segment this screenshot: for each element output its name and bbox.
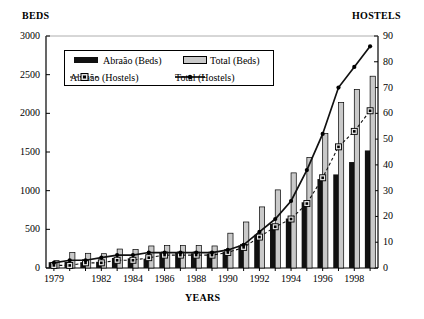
marker-total-hostels <box>99 256 103 260</box>
marker-total-hostels <box>368 44 372 48</box>
dashed-square-line-swatch-icon <box>70 72 100 82</box>
marker-abraao-hostels-core <box>68 264 71 267</box>
marker-total-hostels <box>178 250 182 254</box>
left-tick-label: 2000 <box>10 108 40 118</box>
marker-total-hostels <box>68 258 72 262</box>
plot-area <box>0 0 424 319</box>
bar-total-beds <box>354 89 359 268</box>
right-tick-label: 0 <box>383 263 413 273</box>
bar-total-beds <box>307 157 312 268</box>
marker-abraao-hostels-core <box>147 256 150 259</box>
marker-abraao-hostels-core <box>369 109 372 112</box>
marker-total-hostels <box>83 258 87 262</box>
marker-abraao-hostels-core <box>132 259 135 262</box>
x-tick-label: 1998 <box>334 274 374 284</box>
left-tick-label: 2500 <box>10 70 40 80</box>
bar-abraao-beds <box>302 202 307 268</box>
marker-abraao-hostels-core <box>258 236 261 239</box>
right-tick-label: 20 <box>383 211 413 221</box>
marker-abraao-hostels-core <box>116 259 119 262</box>
x-tick-label: 1979 <box>34 274 74 284</box>
right-tick-label: 90 <box>383 31 413 41</box>
marker-total-hostels <box>131 253 135 257</box>
marker-total-hostels <box>305 168 309 172</box>
left-tick-label: 3000 <box>10 31 40 41</box>
marker-total-hostels <box>321 132 325 136</box>
legend-row-hostels: Abraão (Hostels) Total (Hostels) <box>65 69 273 85</box>
marker-total-hostels <box>52 261 56 265</box>
marker-abraao-hostels-core <box>100 262 103 265</box>
left-tick-label: 500 <box>10 224 40 234</box>
marker-total-hostels <box>257 230 261 234</box>
legend-label: Total (Beds) <box>210 55 260 66</box>
bar-abraao-beds <box>317 179 322 268</box>
bar-abraao-beds <box>333 174 338 268</box>
bar-abraao-beds <box>270 224 275 268</box>
bar-abraao-beds <box>349 162 354 268</box>
bar-total-beds <box>323 133 328 268</box>
solid-dot-line-swatch-icon <box>175 72 205 82</box>
bar-total-beds <box>370 76 375 268</box>
legend-row-beds: Abraão (Beds) Total (Beds) <box>65 52 273 68</box>
marker-total-hostels <box>115 253 119 257</box>
right-tick-label: 10 <box>383 237 413 247</box>
chart-container: BEDS HOSTELS YEARS Abraão (Beds) Total (… <box>0 0 424 319</box>
legend-label: Abraão (Beds) <box>103 55 162 66</box>
right-tick-label: 60 <box>383 108 413 118</box>
marker-total-hostels <box>336 85 340 89</box>
legend-item-abraao-beds: Abraão (Beds) <box>74 55 162 66</box>
marker-total-hostels <box>289 199 293 203</box>
bar-abraao-beds <box>365 150 370 268</box>
marker-total-hostels <box>210 250 214 254</box>
marker-abraao-hostels-core <box>274 225 277 228</box>
chart-legend: Abraão (Beds) Total (Beds) Abraão (Hoste… <box>64 50 274 86</box>
legend-item-total-hostels: Total (Hostels) <box>175 72 235 83</box>
right-tick-label: 50 <box>383 134 413 144</box>
marker-abraao-hostels-core <box>290 218 293 221</box>
right-tick-label: 30 <box>383 186 413 196</box>
bar-abraao-beds <box>286 219 291 268</box>
legend-item-abraao-hostels: Abraão (Hostels) <box>70 72 139 83</box>
left-tick-label: 1500 <box>10 147 40 157</box>
bar-total-beds <box>338 103 343 268</box>
marker-total-hostels <box>226 248 230 252</box>
right-tick-label: 70 <box>383 83 413 93</box>
left-tick-label: 0 <box>10 263 40 273</box>
marker-abraao-hostels-core <box>337 146 340 149</box>
right-tick-label: 80 <box>383 57 413 67</box>
marker-abraao-hostels-core <box>306 202 309 205</box>
right-tick-label: 40 <box>383 160 413 170</box>
marker-total-hostels <box>194 250 198 254</box>
marker-total-hostels <box>147 250 151 254</box>
marker-abraao-hostels-core <box>353 130 356 133</box>
left-tick-label: 1000 <box>10 186 40 196</box>
legend-item-total-beds: Total (Beds) <box>183 55 260 66</box>
solid-bar-swatch-icon <box>74 57 98 63</box>
marker-total-hostels <box>242 243 246 247</box>
open-bar-swatch-icon <box>183 56 207 64</box>
marker-total-hostels <box>162 250 166 254</box>
marker-total-hostels <box>273 217 277 221</box>
marker-abraao-hostels-core <box>321 176 324 179</box>
marker-total-hostels <box>352 65 356 69</box>
